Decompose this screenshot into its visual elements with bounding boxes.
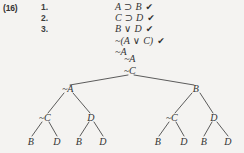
tree-edge [204, 122, 212, 136]
tree-edge [32, 122, 42, 136]
node-letter: C [171, 112, 178, 123]
tree-trunk-node: ~C [124, 65, 136, 76]
tree-node: B [155, 136, 161, 147]
tree-node: D [99, 136, 106, 147]
tree-edge [80, 122, 89, 136]
truth-tree-figure: (16) 1. 2. 3. A ⊃ B✔C ⊃ D✔B ∨ D✔~(A ∨ C)… [0, 0, 244, 153]
tree-edge [176, 122, 184, 136]
tree-trunk-node: ~A [124, 53, 135, 64]
tree-diagram: ~A~C~AB~CD~CDBDBDBDBD [0, 0, 244, 153]
tree-node: B [28, 136, 34, 147]
tree-edge [200, 93, 213, 113]
tree-node: D [180, 136, 187, 147]
tree-edge [159, 122, 169, 136]
node-letter: A [67, 83, 73, 94]
tree-node: ~A [62, 83, 73, 94]
tree-edge [175, 93, 192, 113]
tree-node: B [193, 83, 199, 94]
tree-edge [217, 122, 228, 136]
tree-edge [94, 122, 103, 136]
tree-node: D [53, 136, 60, 147]
tree-edges [0, 0, 244, 153]
tree-edge [134, 75, 194, 85]
tree-node: ~C [166, 112, 178, 123]
tree-edge [48, 93, 64, 113]
tree-node: D [210, 112, 217, 123]
node-letter: C [129, 65, 136, 76]
node-letter: A [129, 53, 135, 64]
tree-edge [73, 93, 90, 113]
node-letter: C [44, 112, 51, 123]
tree-node: ~C [39, 112, 51, 123]
tree-node: D [224, 136, 231, 147]
tree-edge [70, 75, 128, 85]
tree-edge [49, 122, 57, 136]
tree-node: D [87, 112, 94, 123]
tree-node: B [76, 136, 82, 147]
tree-node: B [201, 136, 207, 147]
